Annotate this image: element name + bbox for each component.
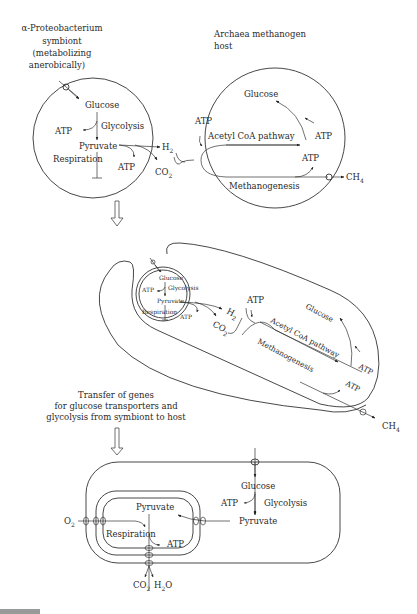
transfer-caption-line: for glucose transporters and (54, 401, 178, 411)
atp-label: ATP (356, 361, 374, 376)
transporter-line (59, 81, 79, 98)
symbiont-cell: Glucose Glycolysis ATP Pyruvate Respirat… (33, 78, 160, 198)
pyruvate-mito-label: Pyruvate (136, 502, 174, 512)
respiration-label: Respiration (142, 308, 177, 316)
atp-arrow (244, 494, 255, 503)
acetyl-coa-label: Acetyl CoA pathway (207, 131, 295, 141)
atp-arrow (305, 118, 314, 123)
atp-label: ATP (343, 378, 361, 393)
glucose-label: Glucose (159, 274, 184, 281)
h2-label: H2 (224, 306, 240, 322)
atp-arrow (355, 346, 360, 352)
symbiont-title-line: symbiont (42, 36, 82, 46)
symbiont-title: α-Proteobacterium symbiont (metabolizing… (21, 23, 102, 70)
transition-arrow-icon (111, 201, 123, 226)
co2-arrow (145, 566, 149, 577)
atp-input-line (246, 308, 255, 323)
atp-arrow (295, 167, 313, 177)
atp-label: ATP (301, 153, 319, 163)
atp-label: ATP (54, 126, 72, 136)
co2-label: CO2 (210, 319, 231, 338)
respiration-label: Respiration (53, 154, 103, 164)
pyruvate-label: Pyruvate (157, 297, 185, 305)
host-cell: ATP Acetyl CoA pathway Glucose ATP ATP M… (174, 68, 345, 208)
co2-label: CO2 (155, 167, 172, 179)
h2-label: H2 (162, 142, 173, 154)
co2-label: CO2 (133, 580, 150, 592)
cropped-caption (0, 609, 40, 614)
eukaryote-stage: Glucose ATP Glycolysis Pyruvate Pyruvate… (64, 448, 340, 592)
h2o-arrow (149, 566, 153, 577)
atp-arrow (119, 145, 134, 157)
glucose-label: Glucose (304, 302, 335, 324)
transfer-caption-line: Transfer of genes (78, 390, 154, 400)
atp-label: ATP (179, 313, 192, 320)
atp-arrow (83, 121, 97, 130)
atp-label: ATP (166, 539, 184, 549)
host-membrane-tail (320, 405, 366, 412)
h2-uptake (176, 153, 185, 162)
symbiont-title-line: (metabolizing (33, 48, 93, 58)
atp-arrow (323, 390, 340, 394)
h2-co2-uptake (228, 318, 242, 333)
pyruvate-label: Pyruvate (79, 141, 117, 151)
symbiont-title-line: α-Proteobacterium (21, 23, 102, 33)
pyruvate-cytosol-label: Pyruvate (239, 516, 277, 526)
transfer-caption: Transfer of genes for glucose transporte… (46, 390, 186, 422)
atp-arrow (199, 136, 202, 146)
host-title: Archaea methanogen host (213, 29, 306, 51)
glucose-import-arrow (69, 90, 79, 99)
symbiont-membrane (33, 78, 153, 198)
h2-co2-uptake (174, 157, 194, 164)
host-title-line: host (214, 41, 233, 51)
atp-label: ATP (246, 295, 264, 305)
atp-label: ATP (141, 286, 154, 293)
atp-label: ATP (314, 131, 332, 141)
ch4-label: CH4 (382, 421, 400, 433)
methanogenesis-label: Methanogenesis (229, 181, 300, 191)
atp-label: ATP (117, 162, 135, 172)
atp-arrow (251, 310, 252, 317)
symbiont-title-line: anerobically) (29, 60, 85, 70)
atp-label: ATP (194, 116, 212, 126)
o2-label: O2 (64, 516, 75, 528)
host-membrane (99, 243, 379, 410)
glucose-label: Glucose (241, 481, 275, 491)
respiration-label: Respiration (106, 529, 156, 539)
ch4-label: CH4 (346, 172, 364, 184)
endosymbiosis-diagram: α-Proteobacterium symbiont (metabolizing… (0, 0, 417, 614)
pyruvate-transporter (194, 517, 199, 525)
h2o-label: H2O (154, 580, 172, 592)
glucose-label: Glucose (244, 89, 278, 99)
glucose-synthesis-arrow (340, 318, 352, 366)
glycolysis-label: Glycolysis (168, 284, 198, 292)
host-title-line: Archaea methanogen (213, 29, 306, 39)
glycolysis-label: Glycolysis (264, 498, 307, 508)
pyruvate-import-arrow (178, 515, 230, 521)
transfer-caption-line: glycolysis from symbiont to host (46, 412, 186, 422)
transition-arrow-icon (111, 428, 123, 455)
glucose-label: Glucose (85, 100, 119, 110)
co2-arrow (135, 145, 157, 160)
atp-arrow (157, 287, 165, 291)
atp-label: ATP (220, 498, 238, 508)
glycolysis-label: Glycolysis (101, 121, 144, 131)
